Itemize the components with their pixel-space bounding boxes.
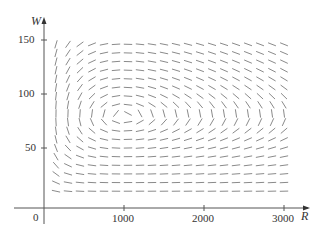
direction-field-plot <box>0 0 327 230</box>
slope-segment <box>281 85 288 90</box>
x-tick-label-2000: 2000 <box>192 212 214 224</box>
slope-segment <box>100 52 108 54</box>
slope-segment <box>196 147 204 149</box>
slope-segment <box>112 61 120 62</box>
slope-segment <box>88 77 95 81</box>
slope-segment <box>148 44 156 45</box>
slope-segment <box>222 118 226 125</box>
slope-segment <box>76 146 83 150</box>
slope-segment <box>257 128 264 133</box>
axis-ticks <box>41 40 284 211</box>
slope-segment <box>196 86 203 90</box>
slope-segment <box>136 87 144 89</box>
slope-segment <box>160 138 168 140</box>
slope-segment <box>258 118 262 126</box>
slope-segment <box>160 52 168 54</box>
slope-segment <box>256 43 264 46</box>
slope-segment <box>172 147 180 148</box>
origin-label: 0 <box>33 211 39 223</box>
slope-segment <box>149 119 155 124</box>
slope-segment <box>66 58 70 65</box>
slope-segment <box>199 109 201 117</box>
slope-segment <box>79 118 81 126</box>
slope-segment <box>196 60 204 63</box>
slope-segment <box>151 109 154 117</box>
slope-segment <box>77 59 83 64</box>
slope-segment <box>136 44 144 45</box>
slope-segment <box>187 109 189 117</box>
slope-segment <box>280 156 288 158</box>
slope-segment <box>280 60 288 64</box>
slope-segment <box>282 101 286 108</box>
slope-segment <box>163 109 165 117</box>
slope-segment <box>196 77 204 80</box>
slope-segment <box>100 44 108 46</box>
slope-segment <box>280 77 287 81</box>
slope-segment <box>234 118 238 125</box>
slope-segment <box>66 136 70 143</box>
slope-segment <box>124 104 132 105</box>
slope-segment <box>67 127 70 135</box>
slope-segment <box>79 101 82 109</box>
slope-segment <box>148 148 156 149</box>
slope-segment <box>90 101 94 108</box>
slope-segment <box>209 128 216 133</box>
slope-segment <box>112 139 120 140</box>
slope-segment <box>208 77 216 81</box>
slope-segment <box>232 68 240 72</box>
slope-segment <box>184 77 192 80</box>
slope-segment <box>173 119 178 126</box>
slope-segment <box>196 129 203 133</box>
slope-segment <box>245 85 252 90</box>
slope-segment <box>100 156 108 157</box>
slope-segment <box>259 109 260 117</box>
slope-segment <box>77 50 84 55</box>
y-tick-label-50: 50 <box>25 141 36 153</box>
slope-segment <box>244 43 252 46</box>
slope-segment <box>256 156 264 158</box>
slope-segment <box>208 138 216 141</box>
slope-segment <box>66 49 71 56</box>
slope-segment <box>100 94 108 98</box>
slope-segment <box>268 156 276 158</box>
slope-segment <box>208 60 216 63</box>
slope-segment <box>136 70 144 71</box>
slope-segment <box>136 95 144 97</box>
slope-segment <box>103 109 105 117</box>
x-axis-label: R <box>301 209 308 224</box>
slope-segment <box>148 95 156 98</box>
slope-segment <box>89 128 95 133</box>
slope-segment <box>148 86 156 88</box>
slope-segment <box>256 174 264 175</box>
slope-segment <box>52 190 60 192</box>
slope-segment <box>232 77 239 81</box>
slope-segment <box>245 128 252 133</box>
slope-segment <box>186 119 191 126</box>
slope-segment <box>196 138 204 141</box>
slope-segment <box>172 138 180 140</box>
slope-segment <box>77 42 84 47</box>
slope-segment <box>160 69 168 71</box>
slope-segment <box>88 174 96 175</box>
slope-segment <box>64 164 72 168</box>
slope-segment <box>197 94 204 99</box>
slope-segment <box>256 68 264 72</box>
slope-segment <box>280 174 288 175</box>
slope-segment <box>268 165 276 166</box>
slope-segment <box>244 77 251 81</box>
slope-segment <box>55 75 57 83</box>
slope-segment <box>55 66 57 74</box>
slope-segment <box>184 165 192 166</box>
slope-segment <box>77 67 83 73</box>
slope-segment <box>124 130 132 131</box>
slope-segment <box>244 138 252 141</box>
slope-segment <box>54 153 58 160</box>
slope-segment <box>196 69 204 72</box>
slope-segment <box>67 92 69 100</box>
slope-segment <box>208 85 215 89</box>
slope-segment <box>112 130 120 131</box>
slope-segment <box>76 164 84 166</box>
slope-segment <box>232 43 240 46</box>
slope-segment <box>244 156 252 158</box>
slope-segment <box>76 173 84 174</box>
